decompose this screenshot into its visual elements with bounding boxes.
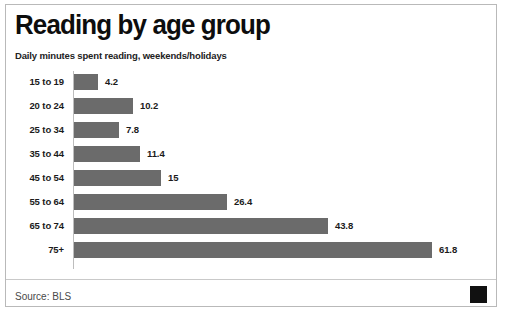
chart-subtitle: Daily minutes spent reading, weekends/ho…: [15, 50, 227, 62]
bar: [74, 194, 227, 210]
bar: [74, 170, 161, 186]
bar: [74, 98, 133, 114]
category-label: 55 to 64: [6, 196, 64, 208]
bar: [74, 242, 432, 258]
category-label: 20 to 24: [6, 100, 64, 112]
black-square-logo: [470, 286, 487, 303]
bar-value-label: 4.2: [105, 76, 118, 88]
bar: [74, 218, 328, 234]
bar-row: 75+ 61.8: [6, 239, 496, 263]
bar: [74, 74, 98, 90]
bar-row: 45 to 54 15: [6, 167, 496, 191]
bar-row: 55 to 64 26.4: [6, 191, 496, 215]
bar-row: 25 to 34 7.8: [6, 119, 496, 143]
bar-row: 35 to 44 11.4: [6, 143, 496, 167]
bar-row: 65 to 74 43.8: [6, 215, 496, 239]
bar-value-label: 15: [168, 172, 178, 184]
bar-value-label: 10.2: [140, 100, 158, 112]
bar-value-label: 61.8: [439, 244, 457, 256]
chart-card: Reading by age group Daily minutes spent…: [5, 4, 497, 307]
category-label: 45 to 54: [6, 172, 64, 184]
category-label: 35 to 44: [6, 148, 64, 160]
bar-chart-plot-area: 15 to 19 4.2 20 to 24 10.2 25 to 34 7.8 …: [6, 71, 496, 269]
bar-value-label: 43.8: [335, 220, 353, 232]
bar-row: 20 to 24 10.2: [6, 95, 496, 119]
source-note: Source: BLS: [15, 290, 71, 303]
page-title: Reading by age group: [15, 10, 270, 40]
bar-value-label: 26.4: [234, 196, 252, 208]
bar-value-label: 7.8: [126, 124, 139, 136]
category-label: 25 to 34: [6, 124, 64, 136]
category-label: 65 to 74: [6, 220, 64, 232]
bar: [74, 146, 140, 162]
footer-divider: [6, 279, 496, 280]
bar-row: 15 to 19 4.2: [6, 71, 496, 95]
category-label: 15 to 19: [6, 76, 64, 88]
category-label: 75+: [6, 244, 64, 256]
bar-value-label: 11.4: [147, 148, 165, 160]
bar: [74, 122, 119, 138]
